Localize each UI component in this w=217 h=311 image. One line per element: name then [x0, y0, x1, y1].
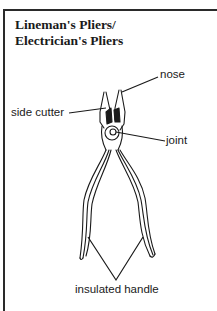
insulated-handle-leader-lines	[88, 237, 143, 280]
pliers-illustration	[0, 0, 217, 311]
label-nose: nose	[160, 68, 185, 81]
label-joint: joint	[166, 134, 187, 147]
joint-leader-line	[116, 132, 165, 141]
joint-outer	[105, 126, 119, 140]
left-jaw-outline	[100, 92, 104, 128]
label-insulated-handle: insulated handle	[75, 283, 159, 296]
joint-inner	[110, 129, 116, 135]
nose-leader-line	[122, 77, 158, 92]
label-side-cutter: side cutter	[11, 106, 64, 119]
